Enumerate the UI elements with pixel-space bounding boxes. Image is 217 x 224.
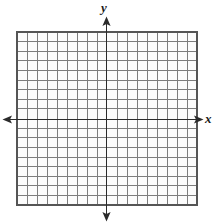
y-axis-label: y xyxy=(101,1,107,14)
coordinate-grid-figure: y x xyxy=(0,0,217,224)
coordinate-plane-graphic xyxy=(0,0,217,224)
x-axis-label: x xyxy=(205,112,212,125)
